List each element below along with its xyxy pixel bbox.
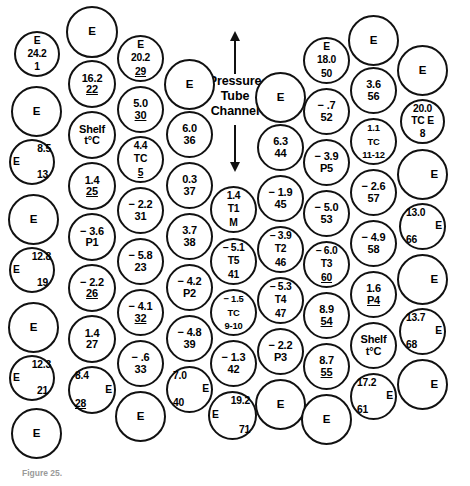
- tube-node-line: E: [30, 214, 37, 226]
- tube-node: E20.229: [117, 35, 164, 82]
- tube-node-line: 8.9: [319, 304, 334, 315]
- tube-node-line: 19.2: [231, 396, 250, 407]
- tube-node-line: E: [323, 42, 330, 53]
- tube-node-line: 5: [138, 168, 144, 179]
- tube-node: E24.21: [14, 31, 60, 77]
- tube-node-empty: E: [397, 359, 448, 410]
- tube-node-line: 31: [135, 211, 147, 222]
- tube-node-line: E: [137, 40, 144, 51]
- tube-node-line: E: [212, 410, 219, 421]
- tube-node-line: E: [33, 428, 40, 440]
- tube-node-empty: E: [255, 379, 306, 430]
- tube-node-line: 0.3: [182, 174, 197, 185]
- tube-node-line: 68: [406, 340, 417, 351]
- tube-node-line: − 2.6: [362, 181, 386, 192]
- tube-node: − 1.945: [257, 175, 304, 222]
- tube-node-empty: E: [164, 59, 215, 110]
- tube-node: − .633: [117, 340, 164, 387]
- tube-node: − 3.9T246: [257, 226, 304, 273]
- tube-node: 8.954: [303, 292, 350, 339]
- tube-node: 8.4E28: [68, 366, 116, 414]
- tube-node: 8.5E13: [9, 139, 55, 185]
- tube-node-line: 42: [228, 364, 240, 375]
- tube-node-line: − 4.1: [129, 301, 153, 312]
- tube-node-line: 8: [420, 129, 426, 140]
- tube-node: 3.656: [350, 67, 397, 114]
- tube-node-line: 32: [135, 313, 147, 324]
- tube-node: 1.6P4: [350, 271, 397, 318]
- tube-node-line: 13.7: [406, 313, 425, 324]
- tube-node-line: 6.0: [182, 123, 197, 134]
- tube-node-line: 18.0: [317, 55, 336, 66]
- tube-node-line: 39: [184, 339, 196, 350]
- tube-node-line: − 5.8: [129, 250, 153, 261]
- tube-node-line: − 5.0: [315, 202, 339, 213]
- tube-node-line: 3.6: [366, 79, 381, 90]
- tube-node-line: E: [435, 326, 442, 337]
- tube-node: 0.337: [166, 162, 213, 209]
- tube-node-line: E: [323, 414, 330, 426]
- tube-node-line: 4.4: [134, 141, 148, 152]
- tube-node-line: 29: [135, 67, 146, 78]
- tube-node-line: E: [186, 79, 193, 91]
- tube-node-line: 66: [406, 235, 417, 246]
- tube-node-line: TC E: [411, 116, 434, 127]
- tube-node: 12.8E19: [9, 247, 55, 293]
- tube-node: − .752: [303, 88, 350, 135]
- tube-node-line: 5.0: [133, 98, 148, 109]
- tube-node-line: 57: [368, 193, 380, 204]
- tube-node-line: E: [435, 221, 442, 232]
- tube-node-line: t°C: [366, 346, 381, 357]
- tube-node: 1.4T1M: [210, 186, 257, 233]
- tube-node-line: − 6.0: [315, 246, 337, 257]
- tube-node-line: 21: [37, 386, 48, 397]
- tube-node-line: 52: [321, 112, 333, 123]
- tube-node-line: 9-10: [225, 321, 243, 331]
- tube-node: 12.3E21: [9, 355, 55, 401]
- tube-node: 19.2E71: [208, 391, 257, 440]
- tube-node-line: 37: [184, 186, 196, 197]
- tube-node: 7.0E40: [166, 366, 213, 413]
- tube-node: − 2.231: [117, 187, 164, 234]
- tube-node-line: E: [202, 384, 209, 395]
- tube-node-line: 54: [321, 316, 333, 327]
- tube-node-line: 19: [37, 278, 48, 289]
- tube-node: 5.030: [117, 86, 164, 133]
- tube-node-line: M: [229, 218, 237, 229]
- tube-node-empty: E: [8, 194, 59, 245]
- tube-node: 8.755: [303, 343, 350, 390]
- tube-node-empty: E: [397, 45, 448, 96]
- tube-node-line: E: [13, 157, 20, 168]
- tube-node-empty: E: [301, 394, 352, 445]
- tube-node-line: T1: [228, 204, 240, 215]
- tube-node-line: − 3.9: [315, 151, 339, 162]
- tube-node-line: 8.4: [75, 371, 89, 382]
- tube-node-line: 1: [34, 62, 40, 73]
- tube-node: 16.222: [68, 60, 116, 108]
- tube-node: − 3.6P1: [68, 213, 116, 261]
- tube-node: − 3.9P5: [303, 139, 350, 186]
- tube-node-line: 22: [86, 84, 98, 95]
- tube-node-line: E: [105, 385, 112, 396]
- pressure-tube-channel-diagram: Pressure Tube Channel E24.21E8.5E13E12.8…: [0, 0, 470, 470]
- tube-node-line: 55: [321, 367, 333, 378]
- tube-node-line: 30: [135, 110, 147, 121]
- tube-node: − 5.053: [303, 190, 350, 237]
- tube-node-line: − 1.3: [222, 352, 246, 363]
- tube-node-line: E: [277, 399, 284, 411]
- tube-node: 4.4TC5: [117, 136, 164, 183]
- tube-node: 13.7E68: [399, 308, 446, 355]
- tube-node-line: − 1.9: [269, 187, 293, 198]
- tube-node-line: 71: [239, 425, 250, 436]
- tube-node-line: 13: [37, 170, 48, 181]
- tube-node: − 2.657: [350, 169, 397, 216]
- tube-node-empty: E: [11, 408, 62, 459]
- tube-node-line: TC: [367, 137, 379, 147]
- tube-node-line: E: [30, 322, 37, 334]
- tube-node-line: T2: [275, 244, 287, 255]
- tube-node-line: 23: [135, 262, 147, 273]
- figure-caption-label: Figure 25.: [22, 468, 62, 478]
- tube-node-line: 47: [275, 309, 286, 320]
- tube-node-line: − 4.2: [178, 276, 202, 287]
- tube-node-line: 58: [368, 244, 380, 255]
